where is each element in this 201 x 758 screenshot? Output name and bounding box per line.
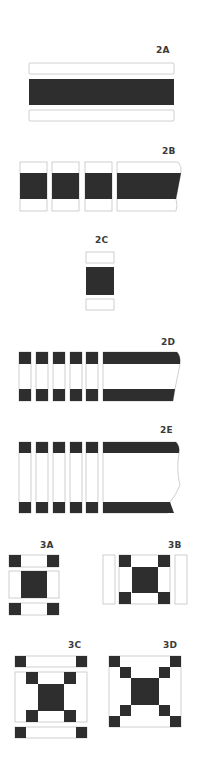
figure-2c [86,252,114,310]
figure-3a [9,555,59,615]
figure-2a [29,63,174,121]
figure-3d [109,656,181,727]
quilt-diagram [0,0,201,758]
figure-2b [20,162,181,211]
figure-2d [19,352,180,401]
figure-3b [103,555,187,604]
figure-3c [15,656,87,738]
figure-2e [19,442,180,513]
